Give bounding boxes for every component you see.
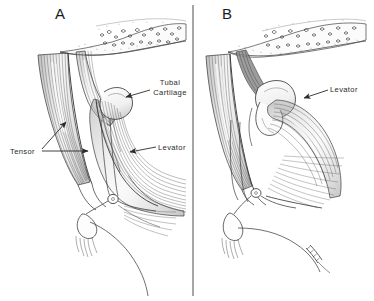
small-bone-detail-b: [306, 245, 330, 273]
levator-muscle-b: [266, 100, 344, 208]
panel-letter-b: B: [222, 5, 233, 22]
panel-a-drawing: [38, 19, 186, 296]
anatomy-figure: A B Tubal Cartilage Tensor Levator Levat…: [0, 0, 374, 301]
panel-b-drawing: [206, 19, 366, 273]
label-levator-b: Levator: [330, 85, 358, 95]
label-tubal-cartilage-line2: Cartilage: [153, 88, 187, 97]
panel-letter-a: A: [55, 5, 66, 22]
label-tensor: Tensor: [10, 147, 35, 157]
palatal-mucosa-a: [60, 19, 186, 56]
label-levator-a: Levator: [158, 143, 186, 153]
palatal-mucosa-b: [228, 19, 366, 57]
label-tubal-cartilage: Tubal Cartilage: [152, 78, 188, 97]
illustration-canvas: [0, 0, 374, 301]
leader-levator-a: [130, 147, 156, 152]
label-tubal-cartilage-line1: Tubal: [160, 78, 180, 87]
leader-levator-b: [304, 90, 328, 98]
